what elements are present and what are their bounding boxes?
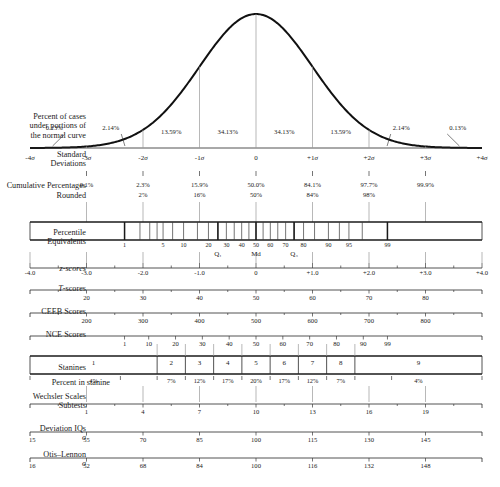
z-score-tick-8: +4.0 [467,269,497,276]
percent-of-cases-value-3: 34.13% [211,128,245,135]
percent-of-cases-value-4: 34.13% [267,128,301,135]
z-score-tick-7: +3.0 [411,269,441,276]
t-scores-tick-label-1: 30 [123,294,163,301]
z-score-tick-1: -3.0 [72,269,102,276]
deviation-iqs-tick-label-0: 55 [67,436,107,443]
otis-lennon-tick-label-2: 84 [180,462,220,469]
stanines-label: Stanines [0,363,86,372]
percentile-tick-2: 10 [173,242,195,248]
cumulative-percentage-2: 15.9% [182,181,218,188]
percent-in-stanine-2: 12% [186,378,214,385]
percentile-equivalents-label: PercentileEquivalents [0,228,86,247]
ceeb-scores-tick-label-4: 600 [293,317,333,324]
stanine-band-5: 6 [269,360,299,368]
deviation-iqs-tick-label-1: 70 [123,436,163,443]
percentile-quartile-0: Q₁ [206,251,230,259]
wechsler-scales-tick-label-3: 10 [236,408,276,415]
nce-scores-label: NCE Scores [0,330,86,339]
z-score-tick-6: +2.0 [354,269,384,276]
ceeb-scores-tick-label-1: 300 [123,317,163,324]
z-score-tick-2: -2.0 [128,269,158,276]
z-score-tick-4: 0 [241,269,271,276]
cumulative-percentage-1: 2.3% [125,181,161,188]
cumulative-percentage-5: 97.7% [351,181,387,188]
stanine-band-4: 5 [241,360,271,368]
otis-lennon-tick-label-6: 148 [406,462,446,469]
ceeb-scores-tick-label-6: 800 [406,317,446,324]
otis-lennon-sigma-value: 16 [29,462,53,469]
wechsler-scales-tick-label-1: 4 [123,408,163,415]
percentile-tick-0: 1 [114,242,136,248]
percent-of-cases-value-0: 0.13% [37,124,71,131]
percent-in-stanine-3: 17% [214,378,242,385]
deviation-iqs-tick-label-3: 100 [236,436,276,443]
rounded-percentage-5: 98% [351,191,387,198]
percent-in-stanine-4: 20% [242,378,270,385]
std-dev-tick-0: -4σ [13,155,47,163]
std-dev-tick-6: +2σ [352,155,386,163]
rounded-percentage-3: 50% [238,191,274,198]
percentile-tick-10: 90 [317,242,339,248]
std-dev-tick-3: -1σ [183,155,217,163]
z-score-tick-5: +1.0 [298,269,328,276]
stanine-band-2: 3 [185,360,215,368]
t-scores-tick-label-6: 80 [406,294,446,301]
percentile-tick-1: 5 [152,242,174,248]
wechsler-scales-tick-label-0: 1 [67,408,107,415]
percent-in-stanine-6: 12% [299,378,327,385]
cumulative-percentage-4: 84.1% [295,181,331,188]
ceeb-scores-tick-label-2: 400 [180,317,220,324]
deviation-iqs-tick-label-6: 145 [406,436,446,443]
deviation-iqs-tick-label-2: 85 [180,436,220,443]
deviation-iqs-tick-label-5: 130 [349,436,389,443]
std-dev-tick-8: +4σ [465,155,499,163]
rounded-label: Rounded [0,191,86,200]
t-scores-tick-label-4: 60 [293,294,333,301]
otis-lennon-tick-label-5: 132 [349,462,389,469]
t-scores-tick-label-2: 40 [180,294,220,301]
percent-of-cases-value-1: 2.14% [94,124,128,131]
cumulative-percentage-3: 50.0% [238,181,274,188]
stanine-band-7: 8 [326,360,356,368]
percentile-tick-9: 80 [293,242,315,248]
otis-lennon-tick-label-0: 52 [67,462,107,469]
otis-lennon-tick-label-1: 68 [123,462,163,469]
percent-of-cases-value-7: 0.13% [441,124,475,131]
wechsler-scales-tick-label-4: 13 [293,408,333,415]
ceeb-scores-label: CEEB Scores [0,307,86,316]
t-scores-tick-label-0: 20 [67,294,107,301]
t-scores-tick-label-5: 70 [349,294,389,301]
std-dev-tick-2: -2σ [126,155,160,163]
percent-in-stanine-0: 4% [80,378,108,385]
stanine-band-0: 1 [79,360,109,368]
percent-in-stanine-8: 4% [404,378,432,385]
nce-scores-tick-label-10: 99 [367,340,407,347]
percent-of-cases-value-5: 13.59% [324,128,358,135]
deviation-iqs-sigma-value: 15 [29,436,53,443]
cumulative-percentage-6: 99.9% [408,181,444,188]
stanine-band-8: 9 [403,360,433,368]
rounded-percentage-2: 16% [182,191,218,198]
wechsler-scales-tick-label-5: 16 [349,408,389,415]
normal-curve-figure: Percent of casesunder portions ofthe nor… [0,0,500,487]
percentile-quartile-1: Md [244,251,268,259]
wechsler-scales-tick-label-2: 7 [180,408,220,415]
percent-of-cases-value-6: 2.14% [384,124,418,131]
std-dev-tick-1: -3σ [70,155,104,163]
rounded-percentage-4: 84% [295,191,331,198]
std-dev-tick-7: +3σ [409,155,443,163]
stanine-band-6: 7 [298,360,328,368]
cumulative-percentage-0: 0.1% [69,181,105,188]
percent-of-cases-value-2: 13.59% [154,128,188,135]
percentile-tick-11: 95 [338,242,360,248]
ceeb-scores-tick-label-3: 500 [236,317,276,324]
t-scores-tick-label-3: 50 [236,294,276,301]
std-dev-tick-5: +1σ [296,155,330,163]
otis-lennon-tick-label-3: 100 [236,462,276,469]
percentile-tick-12: 99 [376,242,398,248]
z-score-tick-3: -1.0 [185,269,215,276]
percent-in-stanine-7: 7% [327,378,355,385]
std-dev-tick-4: 0 [239,155,273,163]
t-scores-label: T-scores [0,284,86,293]
ceeb-scores-tick-label-5: 700 [349,317,389,324]
